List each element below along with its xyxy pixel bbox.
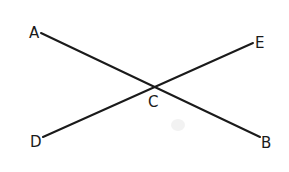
intersecting-lines-diagram: A E C D B	[0, 0, 289, 172]
point-label-c: C	[148, 93, 158, 111]
point-label-a: A	[29, 24, 40, 42]
point-label-d: D	[30, 133, 42, 151]
smudge-mark	[171, 119, 185, 131]
background	[0, 0, 289, 172]
point-label-b: B	[261, 134, 271, 152]
point-label-e: E	[255, 34, 264, 52]
